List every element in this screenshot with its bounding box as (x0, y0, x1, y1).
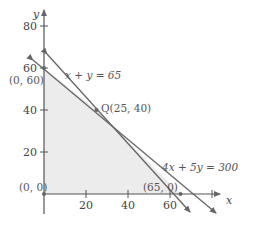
line2-label: 4x + 5y = 300 (161, 161, 239, 173)
point-65-0 (179, 192, 183, 196)
x-tick-label: 40 (121, 199, 135, 212)
linear-programming-graph: 20 40 60 x 20 40 60 80 y x + y = 65 4x +… (0, 0, 253, 227)
x-tick-label: 60 (163, 199, 177, 212)
point-65-0-label: (65, 0) (143, 181, 178, 193)
x-axis-label: x (226, 194, 233, 207)
point-q (95, 108, 99, 112)
point-0-60 (42, 66, 46, 70)
point-origin-label: (0, 0) (19, 181, 47, 193)
y-tick-label: 20 (23, 146, 37, 159)
y-tick-label: 80 (23, 20, 37, 33)
y-tick-label: 40 (23, 104, 37, 117)
line1-label: x + y = 65 (65, 69, 121, 81)
y-axis-label: y (32, 8, 40, 21)
point-0-60-label: (0, 60) (9, 74, 44, 86)
x-tick-label: 20 (79, 199, 93, 212)
point-q-label: Q(25, 40) (101, 102, 151, 114)
